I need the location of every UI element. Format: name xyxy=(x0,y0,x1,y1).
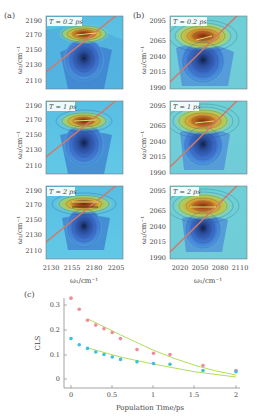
x-tick-labels: 2020 2050 2080 2110 xyxy=(172,264,249,272)
cyan-data-point xyxy=(110,355,114,359)
svg-text:1.5: 1.5 xyxy=(189,391,199,399)
y-tick-labels: 2190 2170 2150 2130 2110 xyxy=(25,102,42,170)
svg-text:ω₃/cm⁻¹: ω₃/cm⁻¹ xyxy=(16,216,24,244)
svg-text:2110: 2110 xyxy=(25,247,42,255)
pink-data-point xyxy=(201,364,205,368)
svg-text:2130: 2130 xyxy=(43,264,60,272)
pink-data-point xyxy=(77,307,81,311)
panel-b-label: (b) xyxy=(133,11,144,20)
svg-text:2150: 2150 xyxy=(25,131,42,139)
svg-text:2190: 2190 xyxy=(25,102,42,110)
svg-text:2150: 2150 xyxy=(25,46,42,54)
svg-text:2130: 2130 xyxy=(25,146,42,154)
y-tick-labels: 2095 2065 2040 2015 1990 xyxy=(149,187,166,262)
svg-text:2130: 2130 xyxy=(25,61,42,69)
svg-text:2050: 2050 xyxy=(192,264,209,272)
panel-b: (b) T = 0.2 ps 2095 xyxy=(133,6,248,285)
cyan-data-point xyxy=(201,369,205,373)
svg-text:2155: 2155 xyxy=(64,264,81,272)
y-tick-labels: 0 0.1 0.2 0.3 xyxy=(50,301,60,383)
svg-text:2205: 2205 xyxy=(108,264,125,272)
svg-text:0.3: 0.3 xyxy=(50,301,60,309)
svg-text:1990: 1990 xyxy=(149,169,166,177)
svg-text:2190: 2190 xyxy=(25,17,42,25)
panel-c-label: (c) xyxy=(24,290,35,299)
cyan-data-point xyxy=(94,350,98,354)
x-axis-label: ω₁/cm⁻¹ xyxy=(194,277,222,285)
svg-text:ω₃/cm⁻¹: ω₃/cm⁻¹ xyxy=(16,46,24,74)
x-axis-label: ω₁/cm⁻¹ xyxy=(70,277,98,285)
y-tick-labels: 2095 2065 2040 2015 1990 xyxy=(149,102,166,177)
svg-text:2110: 2110 xyxy=(25,162,42,170)
svg-text:2170: 2170 xyxy=(25,116,42,124)
time-label: T = 2 ps xyxy=(49,188,77,196)
svg-text:2150: 2150 xyxy=(25,216,42,224)
cyan-data-point xyxy=(135,360,139,364)
x-tick-labels: 0 0.5 1 1.5 2 xyxy=(69,391,238,399)
time-label: T = 0.2 ps xyxy=(173,18,207,26)
time-label: T = 0.2 ps xyxy=(49,18,83,26)
cyan-data-point xyxy=(102,353,106,357)
svg-text:2110: 2110 xyxy=(25,77,42,85)
svg-text:2080: 2080 xyxy=(212,264,229,272)
cyan-fit-line xyxy=(88,348,236,377)
y-tick-labels: 2095 2065 2040 2015 1990 xyxy=(149,17,166,92)
pink-data-point xyxy=(94,323,98,327)
svg-text:0.1: 0.1 xyxy=(50,351,60,359)
svg-text:ω₃/cm⁻¹: ω₃/cm⁻¹ xyxy=(16,131,24,159)
figure: (a) T = 0.2 ps 2190 xyxy=(0,0,259,420)
y-axis-label: CLS xyxy=(34,335,42,350)
svg-text:2170: 2170 xyxy=(25,31,42,39)
time-label: T = 2 ps xyxy=(173,188,201,196)
svg-text:2040: 2040 xyxy=(149,138,166,146)
svg-text:2190: 2190 xyxy=(25,187,42,195)
panel-a-label: (a) xyxy=(4,11,15,20)
svg-text:2065: 2065 xyxy=(149,207,166,215)
svg-text:0.5: 0.5 xyxy=(107,391,117,399)
y-tick-labels: 2190 2170 2150 2130 2110 xyxy=(25,187,42,255)
svg-text:2020: 2020 xyxy=(172,264,189,272)
svg-text:2095: 2095 xyxy=(149,102,166,110)
pink-data-point xyxy=(102,327,106,331)
panel-c: (c) 0 0.1 0.2 0.3 0 0.5 1 1.5 2 xyxy=(24,290,240,412)
svg-text:2065: 2065 xyxy=(149,37,166,45)
svg-text:2095: 2095 xyxy=(149,17,166,25)
svg-text:2015: 2015 xyxy=(149,68,166,76)
pink-data-point xyxy=(86,318,90,322)
cyan-data-point xyxy=(152,362,156,366)
svg-text:1: 1 xyxy=(151,391,155,399)
svg-text:ω₃/cm⁻¹: ω₃/cm⁻¹ xyxy=(140,46,148,74)
cyan-data-point xyxy=(77,343,81,347)
pink-data-point xyxy=(69,296,73,300)
svg-text:2015: 2015 xyxy=(149,153,166,161)
cyan-data-point xyxy=(86,347,90,351)
cyan-data-point xyxy=(168,363,172,367)
svg-text:ω₃/cm⁻¹: ω₃/cm⁻¹ xyxy=(140,216,148,244)
cyan-data-point xyxy=(234,370,238,374)
svg-text:0.2: 0.2 xyxy=(50,326,60,334)
scatter-points xyxy=(69,296,238,373)
svg-text:2095: 2095 xyxy=(149,187,166,195)
cyan-data-point xyxy=(119,358,123,362)
pink-data-point xyxy=(135,348,139,352)
svg-text:2040: 2040 xyxy=(149,223,166,231)
svg-text:0: 0 xyxy=(69,391,73,399)
panel-a: (a) T = 0.2 ps 2190 xyxy=(4,10,124,285)
pink-data-point xyxy=(110,331,114,335)
svg-text:1990: 1990 xyxy=(149,254,166,262)
svg-text:2: 2 xyxy=(234,391,238,399)
svg-text:2040: 2040 xyxy=(149,53,166,61)
svg-text:2110: 2110 xyxy=(232,264,249,272)
svg-text:2065: 2065 xyxy=(149,122,166,130)
x-tick-labels: 2130 2155 2180 2205 xyxy=(43,264,125,272)
svg-text:1990: 1990 xyxy=(149,84,166,92)
svg-text:2170: 2170 xyxy=(25,201,42,209)
svg-text:2180: 2180 xyxy=(86,264,103,272)
svg-text:ω₃/cm⁻¹: ω₃/cm⁻¹ xyxy=(140,131,148,159)
x-axis-label: Population Time/ps xyxy=(116,404,185,412)
pink-fit-line xyxy=(88,319,236,375)
y-tick-labels: 2190 2170 2150 2130 2110 xyxy=(25,17,42,85)
svg-text:2130: 2130 xyxy=(25,231,42,239)
svg-text:0: 0 xyxy=(56,375,60,383)
time-label: T = 1 ps xyxy=(49,103,77,111)
